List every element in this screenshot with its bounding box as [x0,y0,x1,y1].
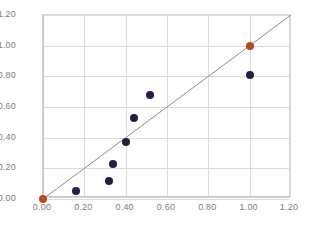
data-point-marker[interactable] [105,177,113,185]
y-tick-label: 1.20 [0,9,16,19]
data-point-marker[interactable] [122,138,130,146]
gridline-vertical [126,15,127,197]
x-axis-line [43,196,289,197]
y-tick-label: 0.80 [0,70,16,80]
y-axis-line [43,15,44,197]
y-tick-label: 0.60 [0,101,16,111]
y-tick-label: 1.00 [0,40,16,50]
x-tick-label: 0.60 [146,202,186,212]
x-tick-label: 0.80 [187,202,227,212]
x-tick-label: 1.00 [229,202,269,212]
x-tick-label: 1.20 [269,202,309,212]
data-point-marker[interactable] [246,71,254,79]
y-tick-label: 0.40 [0,132,16,142]
data-point-marker[interactable] [246,42,254,50]
gridline-vertical [167,15,168,197]
data-point-marker[interactable] [109,160,117,168]
data-point-marker[interactable] [72,187,80,195]
y-tick-label: 0.00 [0,193,16,203]
data-point-marker[interactable] [146,91,154,99]
gridline-vertical [208,15,209,197]
gridline-horizontal [43,107,289,108]
gridline-vertical [290,15,291,197]
y-tick-label: 0.20 [0,162,16,172]
gridline-horizontal [43,199,289,200]
gridline-horizontal [43,138,289,139]
gridline-vertical [84,15,85,197]
data-point-marker[interactable] [130,114,138,122]
gridline-horizontal [43,15,289,16]
x-tick-label: 0.20 [63,202,103,212]
x-tick-label: 0.40 [105,202,145,212]
gridline-horizontal [43,168,289,169]
scatter-chart: 0.000.200.400.600.801.001.20 0.000.200.4… [0,0,312,231]
plot-area [42,14,290,198]
x-tick-label: 0.00 [22,202,62,212]
